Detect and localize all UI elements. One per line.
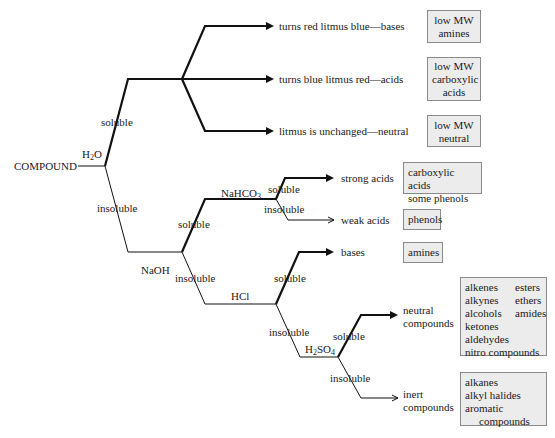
compound-label: COMPOUND bbox=[14, 160, 77, 172]
reagent-nahco3: NaHCO3 bbox=[221, 187, 261, 199]
label-naoh-insoluble: insoluble bbox=[175, 272, 215, 284]
label-water-insoluble: insoluble bbox=[97, 202, 137, 214]
box-inert-list: alkanes alkyl halides aromatic compounds bbox=[460, 372, 547, 426]
outcome-litmus-acids: turns blue litmus red—acids bbox=[279, 73, 403, 85]
outcome-litmus-bases: turns red litmus blue—bases bbox=[279, 20, 405, 32]
label-water-soluble: soluble bbox=[101, 116, 133, 128]
box-low-mw-neutral: low MW neutral bbox=[427, 115, 481, 147]
outcome-inert-compounds: inert compounds bbox=[403, 388, 454, 414]
box-low-mw-carboxylic: low MW carboxylic acids bbox=[427, 57, 481, 101]
reagent-h2so4: H2SO4 bbox=[305, 343, 335, 355]
branch-bases bbox=[182, 26, 272, 79]
outcome-litmus-neutral: litmus is unchanged—neutral bbox=[279, 125, 409, 137]
reagent-water: H2O bbox=[82, 148, 102, 160]
label-h2so4-insoluble: insoluble bbox=[330, 372, 370, 384]
branch-neutral bbox=[182, 79, 272, 131]
label-hcl-soluble: soluble bbox=[274, 272, 306, 284]
label-nahco3-insoluble: insoluble bbox=[264, 203, 304, 215]
reagent-hcl: HCl bbox=[231, 290, 249, 302]
label-nahco3-soluble: soluble bbox=[268, 183, 300, 195]
box-amines: amines bbox=[403, 242, 443, 263]
label-h2so4-soluble: soluble bbox=[333, 330, 365, 342]
label-naoh-soluble: soluble bbox=[178, 218, 210, 230]
outcome-bases: bases bbox=[341, 246, 365, 258]
box-low-mw-amines: low MW amines bbox=[427, 10, 481, 43]
box-carboxylic-phenols: carboxylic acids some phenols bbox=[403, 162, 482, 194]
outcome-strong-acids: strong acids bbox=[341, 172, 394, 184]
reagent-naoh: NaOH bbox=[141, 264, 170, 276]
outcome-weak-acids: weak acids bbox=[341, 214, 390, 226]
box-neutral-list: alkenesesters alkynesethers alcoholsamid… bbox=[460, 277, 547, 356]
label-hcl-insoluble: insoluble bbox=[269, 326, 309, 338]
box-phenols: phenols bbox=[403, 209, 441, 230]
outcome-neutral-compounds: neutral compounds bbox=[403, 304, 454, 330]
